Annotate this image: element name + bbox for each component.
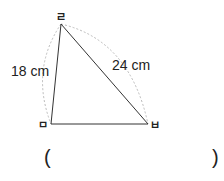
- side-right-length: 24 cm: [112, 57, 150, 73]
- side-left-length: 18 cm: [11, 63, 49, 79]
- vertex-bottom-left-label: ㅁ: [38, 119, 48, 131]
- answer-paren-open: (: [44, 146, 51, 168]
- side-right: [61, 24, 148, 124]
- vertex-bottom-right-label: ㅂ: [150, 119, 160, 131]
- answer-paren-close: ): [212, 146, 219, 168]
- vertex-top-label: ㄹ: [56, 11, 66, 23]
- triangle-diagram: ㄹ ㅁ ㅂ 18 cm 24 cm ( ): [0, 0, 224, 181]
